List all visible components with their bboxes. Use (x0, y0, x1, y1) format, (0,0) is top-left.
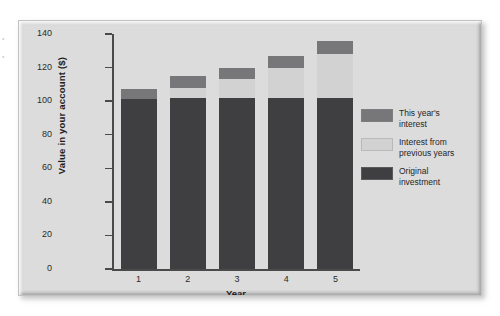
legend-label: Interest fromprevious years (399, 137, 479, 158)
y-axis-tick-label: 0 (18, 263, 52, 273)
bar-segment[interactable] (219, 68, 255, 80)
bar-group[interactable] (268, 34, 304, 269)
bar-group[interactable] (219, 34, 255, 269)
legend-item[interactable]: This year'sinterest (361, 108, 479, 130)
legend-label: This year'sinterest (399, 108, 479, 129)
x-axis-tick-label: 1 (119, 274, 159, 284)
bar-segment[interactable] (170, 76, 206, 88)
bar-segment[interactable] (170, 98, 206, 269)
bar-group[interactable] (170, 34, 206, 269)
bar-segment[interactable] (170, 88, 206, 98)
bar-segment[interactable] (121, 89, 157, 99)
x-axis-tick-label: 3 (217, 274, 257, 284)
y-axis-tick (105, 100, 112, 102)
legend-item[interactable]: Originalinvestment (361, 166, 479, 188)
bar-group[interactable] (121, 34, 157, 269)
y-axis-tick-label: 40 (18, 196, 52, 206)
x-axis-tick-label: 5 (315, 274, 355, 284)
bar-segment[interactable] (219, 79, 255, 97)
legend-item[interactable]: Interest fromprevious years (361, 137, 479, 159)
bar-segment[interactable] (268, 68, 304, 98)
y-axis-tick (105, 201, 112, 203)
bar-segment[interactable] (268, 98, 304, 269)
y-axis-tick-label: 20 (18, 229, 52, 239)
x-axis-line (112, 269, 360, 271)
bar-group[interactable] (317, 34, 353, 269)
y-axis-tick-label: 60 (18, 162, 52, 172)
x-axis-title: Year (112, 288, 360, 296)
y-axis-tick (105, 235, 112, 237)
y-axis-tick-label: 120 (18, 62, 52, 72)
figure-inner-surface: Value in your account ($) 02040608010012… (24, 26, 476, 290)
x-axis-tick-label: 4 (266, 274, 306, 284)
figure-plate: Value in your account ($) 02040608010012… (18, 20, 482, 296)
stacked-bar-chart: Value in your account ($) 02040608010012… (24, 26, 476, 290)
y-axis-tick (105, 168, 112, 170)
y-axis-tick (105, 268, 112, 270)
bar-segment[interactable] (268, 56, 304, 68)
bar-segment[interactable] (219, 98, 255, 269)
legend-swatch (361, 167, 393, 180)
y-axis-tick (105, 67, 112, 69)
legend-swatch (361, 138, 393, 151)
y-axis-tick-label: 140 (18, 28, 52, 38)
y-axis-tick-label: 80 (18, 129, 52, 139)
legend-label: Originalinvestment (399, 166, 479, 187)
bar-segment[interactable] (317, 98, 353, 269)
y-axis-tick (105, 134, 112, 136)
bar-segment[interactable] (317, 54, 353, 98)
bar-segment[interactable] (121, 99, 157, 269)
y-axis-tick-label: 100 (18, 95, 52, 105)
legend-swatch (361, 109, 393, 122)
y-axis-tick (105, 33, 112, 35)
y-axis-title: Value in your account ($) (56, 41, 67, 191)
plot-area (114, 34, 360, 269)
x-axis-tick-label: 2 (168, 274, 208, 284)
bar-segment[interactable] (317, 41, 353, 54)
chart-legend: This year'sinterestInterest fromprevious… (361, 108, 479, 195)
